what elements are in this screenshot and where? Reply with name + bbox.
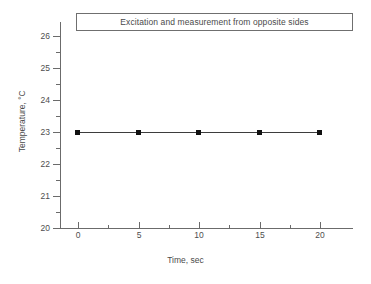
series-line-segment <box>139 132 200 133</box>
x-axis-tick-label: 10 <box>184 231 214 240</box>
y-axis-tick-minor <box>56 84 60 85</box>
x-axis-tick-major <box>78 222 79 229</box>
y-axis-tick-label: 22 <box>28 160 50 169</box>
y-axis-tick-label: 25 <box>28 64 50 73</box>
y-axis-line <box>60 22 61 229</box>
y-axis-tick-minor <box>56 180 60 181</box>
series-line-segment <box>260 132 321 133</box>
x-axis-title: Time, sec <box>0 256 371 265</box>
y-axis-tick-major <box>53 36 60 37</box>
y-axis-tick-label: 21 <box>28 192 50 201</box>
data-point-marker <box>317 130 322 135</box>
x-axis-tick-minor <box>169 225 170 229</box>
y-axis-tick-label: 20 <box>28 224 50 233</box>
y-axis-tick-minor <box>56 148 60 149</box>
y-axis-tick-major <box>53 164 60 165</box>
y-axis-tick-minor <box>56 212 60 213</box>
y-axis-tick-major <box>53 100 60 101</box>
x-axis-tick-minor <box>108 225 109 229</box>
x-axis-tick-label: 0 <box>63 231 93 240</box>
data-point-marker <box>196 130 201 135</box>
data-point-marker <box>257 130 262 135</box>
x-axis-line <box>60 228 353 229</box>
x-axis-tick-major <box>139 222 140 229</box>
x-axis-tick-minor <box>290 225 291 229</box>
x-axis-tick-minor <box>229 225 230 229</box>
chart-title: Excitation and measurement from opposite… <box>120 18 308 27</box>
x-axis-tick-label: 5 <box>124 231 154 240</box>
y-axis-tick-label: 23 <box>28 128 50 137</box>
y-axis-tick-major <box>53 68 60 69</box>
x-axis-tick-label: 20 <box>305 231 335 240</box>
x-axis-tick-major <box>260 222 261 229</box>
y-axis-tick-major <box>53 228 60 229</box>
y-axis-tick-major <box>53 132 60 133</box>
y-axis-tick-label: 24 <box>28 96 50 105</box>
y-axis-tick-label: 26 <box>28 32 50 41</box>
x-axis-tick-label: 15 <box>245 231 275 240</box>
x-axis-tick-major <box>320 222 321 229</box>
y-axis-tick-minor <box>56 116 60 117</box>
x-axis-tick-major <box>199 222 200 229</box>
y-axis-tick-minor <box>56 52 60 53</box>
data-point-marker <box>136 130 141 135</box>
chart-title-box: Excitation and measurement from opposite… <box>76 13 353 31</box>
y-axis-tick-major <box>53 196 60 197</box>
data-point-marker <box>75 130 80 135</box>
chart-figure: Excitation and measurement from opposite… <box>0 0 371 284</box>
series-line-segment <box>78 132 139 133</box>
series-line-segment <box>199 132 260 133</box>
y-axis-tick-labels: 20212223242526 <box>26 0 50 284</box>
y-axis-title: Temperature, °C <box>18 61 27 181</box>
